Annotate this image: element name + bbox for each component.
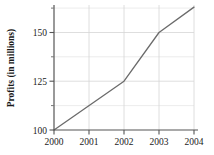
line-chart: 100 125 150 2000 2001 2002 2003 2004 Pro… <box>0 0 214 155</box>
x-tick-label-2003: 2003 <box>150 137 169 147</box>
chart-canvas: 100 125 150 2000 2001 2002 2003 2004 Pro… <box>0 0 214 155</box>
y-tick-label-100: 100 <box>33 126 48 136</box>
y-tick-label-125: 125 <box>33 77 48 87</box>
x-tick-label-2004: 2004 <box>185 137 204 147</box>
x-tick-label-2002: 2002 <box>115 137 134 147</box>
x-tick-label-2000: 2000 <box>45 137 64 147</box>
y-axis-title: Profits (in millions) <box>6 29 17 107</box>
x-axis-ticks <box>54 130 194 135</box>
y-axis-ticks <box>50 8 55 130</box>
y-tick-label-150: 150 <box>33 28 48 38</box>
x-tick-label-2001: 2001 <box>80 137 99 147</box>
